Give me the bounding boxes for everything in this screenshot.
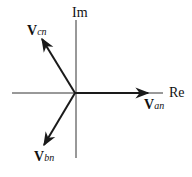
label-vbn: Vbn: [34, 150, 54, 164]
real-axis-label: Re: [169, 86, 185, 100]
label-vcn: Vcn: [27, 24, 47, 38]
imaginary-axis-label: Im: [72, 6, 88, 20]
label-van: Van: [144, 98, 164, 112]
phasor-vcn: [42, 39, 75, 93]
phasor-vbn: [44, 93, 75, 145]
